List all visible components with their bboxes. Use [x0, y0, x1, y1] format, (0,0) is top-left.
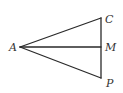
segment-ap [20, 47, 101, 78]
label-p: P [105, 77, 114, 90]
label-a: A [8, 41, 17, 54]
label-m: M [104, 41, 117, 54]
geometry-diagram: A C M P [0, 0, 123, 93]
label-c: C [105, 13, 114, 26]
segment-ac [20, 18, 101, 47]
